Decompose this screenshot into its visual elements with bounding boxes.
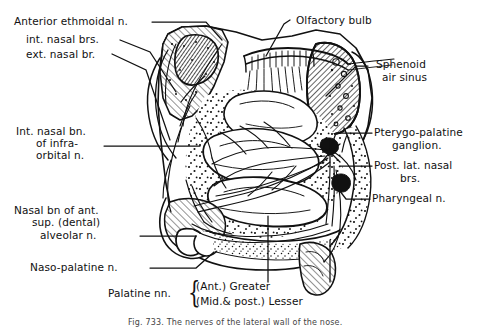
label-post-lat-nasal-brs-line1: Post. lat. nasal	[374, 159, 452, 171]
label-nasal-bn-alveolar-line3: alveolar n.	[40, 229, 97, 241]
leader-sphenoid-air-sinus	[326, 66, 368, 96]
label-int-nasal-bn-infraorbital-line1: Int. nasal bn.	[16, 125, 86, 137]
leader-int-nasal-brs	[120, 40, 176, 92]
label-sphenoid-air-sinus-line2: air sinus	[382, 71, 427, 83]
leader-ext-nasal-br	[112, 54, 170, 140]
label-palatine-nn: Palatine nn.	[108, 287, 171, 299]
label-post-lat-nasal-brs-line2: brs.	[400, 172, 420, 184]
label-pterygo-palatine-ganglion-line1: Pterygo-palatine	[374, 126, 463, 138]
label-palatine-lesser: (Mid.& post.) Lesser	[196, 295, 303, 307]
leader-olfactory-bulb	[266, 20, 290, 56]
leader-pterygo-palatine-ganglion-tail	[330, 133, 336, 150]
label-anterior-ethmoidal-n: Anterior ethmoidal n.	[14, 15, 128, 27]
leader-pharyngeal-n	[336, 186, 370, 199]
label-nasal-bn-alveolar-line1: Nasal bn of ant.	[14, 204, 99, 216]
label-olfactory-bulb: Olfactory bulb	[296, 14, 372, 26]
figure-caption: Fig. 733. The nerves of the lateral wall…	[128, 318, 342, 327]
label-palatine-greater: (Ant.) Greater	[196, 280, 270, 292]
label-int-nasal-brs: int. nasal brs.	[26, 33, 99, 45]
label-ext-nasal-br: ext. nasal br.	[26, 48, 95, 60]
label-int-nasal-bn-infraorbital-line3: orbital n.	[36, 149, 84, 161]
label-pharyngeal-n: Pharyngeal n.	[372, 192, 446, 204]
label-naso-palatine-n: Naso-palatine n.	[30, 261, 118, 273]
label-int-nasal-bn-infraorbital-line2: of infra-	[36, 137, 78, 149]
label-sphenoid-air-sinus-line1: Sphenoid	[376, 58, 426, 70]
label-nasal-bn-alveolar-line2: sup. (dental)	[32, 216, 100, 228]
leader-anterior-ethmoidal	[152, 22, 222, 40]
leader-lines	[104, 20, 372, 282]
label-pterygo-palatine-ganglion-line2: ganglion.	[392, 139, 442, 151]
leader-naso-palatine	[150, 252, 214, 268]
